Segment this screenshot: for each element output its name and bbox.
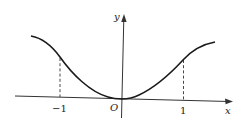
y-axis: [121, 14, 126, 118]
y-axis-label: y: [113, 11, 120, 22]
tick-label-pos-one: 1: [180, 105, 186, 116]
x-axis: [15, 96, 233, 104]
x-axis-label: x: [225, 105, 231, 116]
function-graph: y x O −1 1: [0, 0, 244, 132]
tick-label-neg-one: −1: [52, 103, 67, 114]
y-axis-arrow-icon: [121, 14, 126, 22]
x-axis-arrow-icon: [225, 99, 233, 105]
origin-label: O: [110, 102, 118, 113]
